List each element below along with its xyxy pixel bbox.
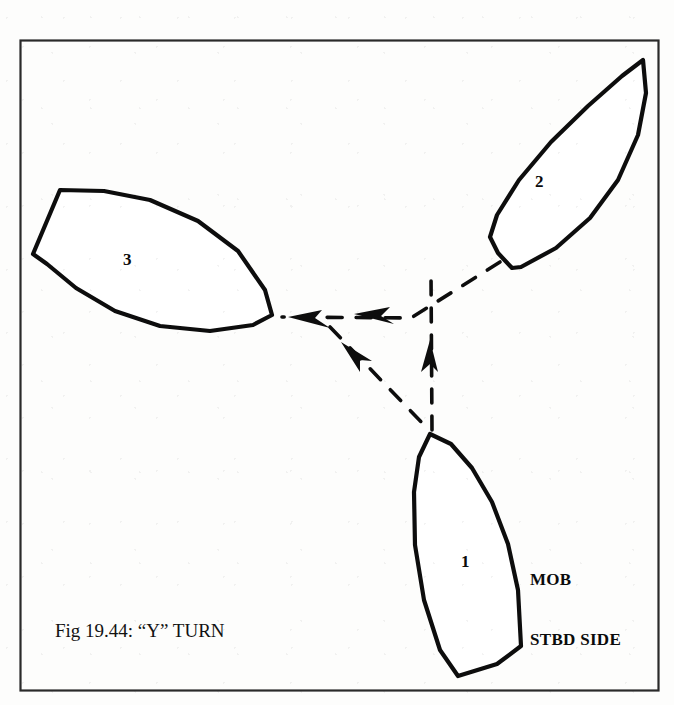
vessel-label-3: 3 [123,250,132,270]
mob-annotation: MOB STBD SIDE [530,530,621,690]
figure-caption: Fig 19.44: “Y” TURN [55,620,225,642]
figure-root: 1 2 3 MOB STBD SIDE Fig 19.44: “Y” TURN [0,0,674,705]
mob-annotation-line-1: MOB [530,570,621,590]
mob-annotation-line-2: STBD SIDE [530,630,621,650]
vessel-label-2: 2 [535,172,544,192]
vessel-label-1: 1 [461,552,470,572]
